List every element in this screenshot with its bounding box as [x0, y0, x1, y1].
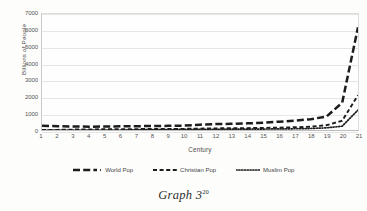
y-tick-label: 4000: [25, 61, 38, 67]
y-tick-label: 1000: [25, 111, 38, 117]
x-tick-label: 5: [103, 133, 106, 139]
graph-figure-root: Billions of People 700060005000400030002…: [0, 0, 367, 211]
x-tick-label: 13: [228, 133, 235, 139]
x-tick-label: 19: [324, 133, 331, 139]
x-tick-label: 20: [340, 133, 347, 139]
chart-legend: World PopChristian PopMuslim Pop: [0, 166, 367, 174]
series-lines: [42, 14, 358, 130]
long-dash-line-icon: [73, 166, 97, 174]
x-tick-label: 8: [151, 133, 154, 139]
series-line-world-pop: [42, 27, 358, 126]
x-tick-label: 7: [135, 133, 138, 139]
legend-label: Muslim Pop: [263, 167, 294, 173]
x-tick-label: 21: [356, 133, 363, 139]
caption-text: Graph 3: [158, 188, 202, 202]
legend-item-world-pop[interactable]: World Pop: [73, 166, 134, 174]
dotted-line-icon: [236, 166, 260, 174]
x-axis-tick-labels: 123456789101112131415161718192021: [41, 133, 359, 145]
x-tick-label: 3: [71, 133, 74, 139]
x-tick-label: 18: [308, 133, 315, 139]
dash-line-icon: [153, 166, 177, 174]
x-tick-label: 10: [181, 133, 188, 139]
caption-footnote-marker: 20: [202, 188, 209, 195]
x-tick-label: 17: [292, 133, 299, 139]
x-tick-label: 6: [119, 133, 122, 139]
plot-area: [41, 13, 359, 131]
x-tick-label: 14: [244, 133, 251, 139]
x-tick-label: 9: [167, 133, 170, 139]
legend-item-christian-pop[interactable]: Christian Pop: [153, 166, 216, 174]
x-tick-label: 4: [87, 133, 90, 139]
y-tick-label: 5000: [25, 44, 38, 50]
chart-figure: Billions of People 700060005000400030002…: [0, 0, 367, 185]
figure-caption: Graph 320: [0, 188, 367, 203]
y-tick-label: 6000: [25, 27, 38, 33]
legend-bullet-icon: [100, 169, 102, 171]
y-tick-label: 2000: [25, 94, 38, 100]
x-tick-label: 12: [213, 133, 220, 139]
x-tick-label: 11: [197, 133, 203, 139]
x-tick-label: 1: [39, 133, 42, 139]
y-axis-tick-labels: 70006000500040003000200010000: [12, 13, 38, 131]
x-tick-label: 15: [260, 133, 267, 139]
x-axis-title: Century: [41, 146, 359, 153]
legend-label: World Pop: [105, 167, 133, 173]
y-tick-label: 0: [35, 128, 38, 134]
y-tick-label: 3000: [25, 77, 38, 83]
x-tick-label: 2: [55, 133, 58, 139]
legend-label: Christian Pop: [180, 167, 216, 173]
legend-item-muslim-pop[interactable]: Muslim Pop: [236, 166, 294, 174]
y-tick-label: 7000: [25, 10, 38, 16]
x-tick-label: 16: [276, 133, 283, 139]
